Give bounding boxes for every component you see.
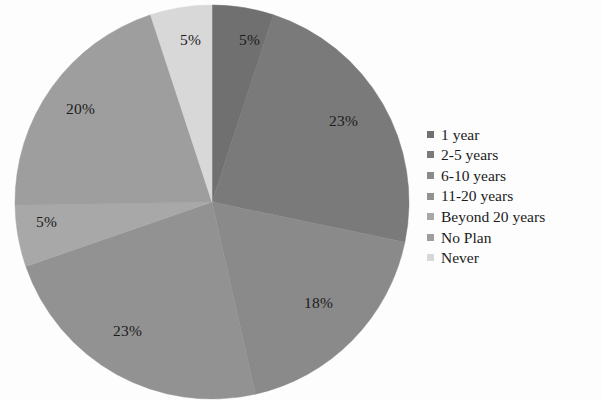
legend-color-swatch-icon — [427, 254, 434, 261]
legend-color-swatch-icon — [427, 131, 434, 138]
pie-slice-percentage-label: 20% — [66, 100, 95, 118]
legend-item-label: Never — [441, 250, 479, 266]
legend-item[interactable]: No Plan — [427, 227, 595, 248]
legend-item-label: Beyond 20 years — [441, 209, 545, 225]
legend-color-swatch-icon — [427, 193, 434, 200]
legend-item[interactable]: 2-5 years — [427, 145, 595, 166]
pie-slice-percentage-label: 5% — [36, 213, 57, 231]
legend-item-label: 2-5 years — [441, 147, 498, 163]
legend-item[interactable]: 11-20 years — [427, 186, 595, 207]
legend-item[interactable]: 1 year — [427, 124, 595, 145]
legend-color-swatch-icon — [427, 213, 434, 220]
pie-slice-percentage-label: 5% — [180, 31, 201, 49]
pie-slice-percentage-label: 23% — [329, 112, 358, 130]
legend-item[interactable]: 6-10 years — [427, 165, 595, 186]
scan-bleed-artifact-upper-right-2 — [404, 76, 483, 93]
pie-slice-percentage-label: 23% — [113, 322, 142, 340]
chart-legend: 1 year2-5 years6-10 years11-20 yearsBeyo… — [427, 124, 595, 268]
pie-slice-percentage-label: 5% — [239, 31, 260, 49]
legend-color-swatch-icon — [427, 234, 434, 241]
pie-slice-percentage-label: 18% — [304, 294, 333, 312]
legend-item-label: 1 year — [441, 127, 479, 143]
pie-slices-group — [15, 5, 409, 399]
legend-color-swatch-icon — [427, 172, 434, 179]
scan-bleed-artifact-upper-right — [404, 56, 483, 73]
legend-item-label: No Plan — [441, 230, 491, 246]
legend-item[interactable]: Never — [427, 248, 595, 269]
legend-color-swatch-icon — [427, 151, 434, 158]
legend-item-label: 6-10 years — [441, 168, 506, 184]
legend-item-label: 11-20 years — [441, 188, 513, 204]
pie-chart-svg — [14, 4, 410, 400]
pie-chart-plot-area: 5%23%18%23%5%20%5% — [14, 4, 410, 400]
legend-item[interactable]: Beyond 20 years — [427, 206, 595, 227]
